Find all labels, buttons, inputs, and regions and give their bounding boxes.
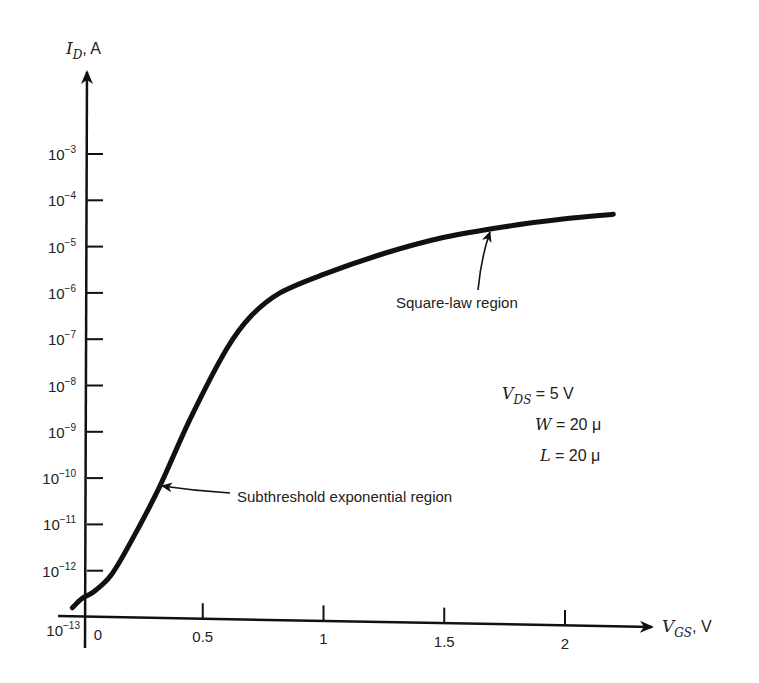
y-tick-label: 10−13 [46, 620, 80, 639]
device-parameters: VDS = 5 V W = 20 μ L = 20 μ [502, 384, 601, 465]
y-tick-label: 10−8 [48, 376, 77, 395]
x-tick-label: 2 [561, 635, 569, 652]
id-vgs-curve [72, 214, 613, 608]
param-l: L = 20 μ [539, 446, 600, 465]
y-tick-label: 10−5 [48, 237, 77, 256]
y-tick-label: 10−12 [42, 561, 76, 580]
id-vs-vgs-chart: 10−310−410−510−610−710−810−910−1010−1110… [0, 0, 759, 683]
square-law-label: Square-law region [396, 294, 518, 311]
x-axis-title: VGS, V [662, 616, 712, 640]
x-tick-label: 1 [319, 630, 327, 647]
y-axis-line [85, 72, 87, 648]
y-axis-title: ID, A [65, 38, 101, 62]
x-axis-ticks: 00.511.52 [94, 603, 569, 652]
y-tick-label: 10−6 [48, 283, 77, 302]
x-axis: 00.511.52 VGS, V [58, 603, 712, 652]
y-tick-label: 10−11 [43, 514, 76, 533]
x-tick-label: 1.5 [434, 633, 455, 650]
y-tick-label: 10−10 [42, 468, 76, 487]
x-axis-line [58, 616, 652, 627]
x-tick-label: 0 [94, 626, 102, 643]
y-axis: 10−310−410−510−610−710−810−910−1010−1110… [42, 38, 103, 648]
y-tick-label: 10−7 [48, 329, 77, 348]
subthreshold-annotation: Subthreshold exponential region [162, 486, 452, 505]
square-law-arrow [478, 232, 490, 290]
y-axis-ticks: 10−310−410−510−610−710−810−910−1010−1110… [42, 144, 103, 639]
y-tick-label: 10−9 [48, 422, 77, 441]
subthreshold-label: Subthreshold exponential region [237, 488, 452, 505]
param-w: W = 20 μ [535, 415, 601, 434]
y-tick-label: 10−3 [48, 144, 77, 163]
y-tick-label: 10−4 [48, 190, 77, 209]
subthreshold-arrow [162, 486, 230, 493]
x-tick-label: 0.5 [192, 628, 213, 645]
param-vds: VDS = 5 V [502, 384, 574, 407]
